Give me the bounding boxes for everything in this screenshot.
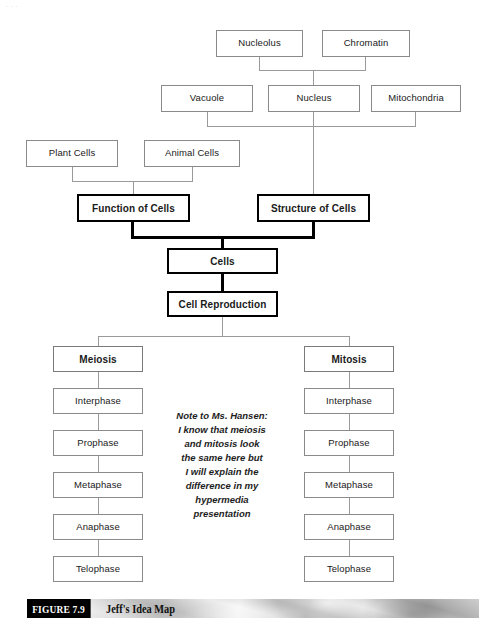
node-mitosis-metaphase-label: Metaphase [325, 480, 373, 490]
node-meiosis-interphase[interactable]: Interphase [53, 388, 143, 414]
node-chromatin-label: Chromatin [344, 38, 389, 48]
node-mitosis-telophase[interactable]: Telophase [304, 556, 394, 582]
node-meiosis[interactable]: Meiosis [53, 346, 143, 372]
connector-meiosis-1 [98, 372, 99, 388]
node-meiosis-metaphase-label: Metaphase [74, 480, 122, 490]
connector-reproduction-split-bar [98, 336, 350, 337]
node-meiosis-telophase-label: Telophase [76, 564, 120, 574]
node-mitosis-metaphase[interactable]: Metaphase [304, 472, 394, 498]
figure-number-tag: FIGURE 7.9 [27, 599, 91, 618]
node-mitosis-telophase-label: Telophase [327, 564, 371, 574]
node-nucleus-label: Nucleus [296, 93, 331, 103]
node-cells-label: Cells [210, 256, 234, 267]
student-note-line-6: difference in my [156, 479, 288, 493]
node-mitosis-anaphase-label: Anaphase [327, 522, 371, 532]
node-cell-reproduction-label: Cell Reproduction [179, 299, 267, 310]
student-note-line-2: I know that meiosis [156, 423, 288, 437]
node-cells[interactable]: Cells [167, 248, 278, 274]
student-note-line-3: and mitosis look [156, 437, 288, 451]
node-meiosis-label: Meiosis [79, 354, 116, 365]
student-note-line-4: the same here but [156, 451, 288, 465]
figure-caption-title: Jeff's Idea Map [106, 599, 175, 618]
node-function-of-cells[interactable]: Function of Cells [77, 194, 190, 222]
student-note-line-5: I will explain the [156, 465, 288, 479]
node-meiosis-anaphase-label: Anaphase [76, 522, 120, 532]
node-chromatin[interactable]: Chromatin [322, 30, 410, 57]
connector-mitosis-4 [349, 498, 350, 514]
node-vacuole[interactable]: Vacuole [161, 85, 253, 112]
node-mitosis-interphase-label: Interphase [326, 396, 372, 406]
connector-meiosis-5 [98, 540, 99, 556]
connector-cell-reproduction-down [222, 317, 223, 337]
connector-mitosis-1 [349, 372, 350, 388]
node-animal-cells[interactable]: Animal Cells [144, 140, 240, 167]
figure-page: ... Nucleolus Chromatin Vacuole Nucleus … [0, 0, 489, 638]
node-meiosis-telophase[interactable]: Telophase [53, 556, 143, 582]
connector-mitosis-2 [349, 414, 350, 430]
node-mitochondria[interactable]: Mitochondria [371, 85, 461, 112]
connector-vacuole-down [207, 112, 208, 127]
node-cell-reproduction[interactable]: Cell Reproduction [167, 291, 278, 317]
node-mitosis-anaphase[interactable]: Anaphase [304, 514, 394, 540]
node-plant-cells[interactable]: Plant Cells [26, 140, 118, 167]
node-mitosis-prophase-label: Prophase [328, 438, 369, 448]
connector-animal-cells-down [192, 167, 193, 182]
connector-cells-to-cell-reproduction [221, 274, 224, 292]
node-mitosis-prophase[interactable]: Prophase [304, 430, 394, 456]
student-note: Note to Ms. Hansen: I know that meiosis … [156, 409, 288, 521]
node-meiosis-interphase-label: Interphase [75, 396, 121, 406]
node-function-of-cells-label: Function of Cells [92, 203, 175, 214]
node-mitosis-interphase[interactable]: Interphase [304, 388, 394, 414]
node-vacuole-label: Vacuole [190, 93, 224, 103]
student-note-line-8: presentation [156, 507, 288, 521]
connector-meiosis-2 [98, 414, 99, 430]
node-meiosis-anaphase[interactable]: Anaphase [53, 514, 143, 540]
connector-into-function-of-cells [133, 181, 134, 195]
connector-mitosis-3 [349, 456, 350, 472]
node-structure-of-cells[interactable]: Structure of Cells [257, 194, 370, 222]
connector-chromatin-down [365, 57, 366, 71]
scan-artifact-marks: ... [6, 1, 20, 9]
node-meiosis-prophase-label: Prophase [77, 438, 118, 448]
connector-nucleolus-down [259, 57, 260, 71]
node-structure-of-cells-label: Structure of Cells [271, 203, 356, 214]
student-note-line-1: Note to Ms. Hansen: [156, 409, 288, 423]
node-mitochondria-label: Mitochondria [388, 93, 444, 103]
figure-caption-banner: FIGURE 7.9 Jeff's Idea Map [27, 599, 479, 618]
node-nucleolus-label: Nucleolus [238, 38, 281, 48]
node-nucleus[interactable]: Nucleus [268, 85, 360, 112]
node-mitosis[interactable]: Mitosis [304, 346, 394, 372]
connector-meiosis-4 [98, 498, 99, 514]
node-plant-cells-label: Plant Cells [49, 148, 96, 158]
connector-plant-cells-down [72, 167, 73, 182]
connector-meiosis-3 [98, 456, 99, 472]
node-meiosis-metaphase[interactable]: Metaphase [53, 472, 143, 498]
connector-mitochondria-down [415, 112, 416, 127]
node-mitosis-label: Mitosis [331, 354, 366, 365]
node-animal-cells-label: Animal Cells [165, 148, 219, 158]
connector-organelles-bar [207, 126, 416, 127]
student-note-line-7: hypermedia [156, 493, 288, 507]
node-meiosis-prophase[interactable]: Prophase [53, 430, 143, 456]
node-nucleolus[interactable]: Nucleolus [216, 30, 303, 57]
connector-mitosis-5 [349, 540, 350, 556]
